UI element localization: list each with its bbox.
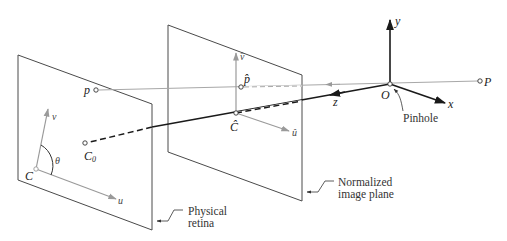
- label-u: u: [118, 195, 123, 206]
- label-p-hat: p̂: [243, 72, 250, 86]
- u-axis: [36, 169, 116, 199]
- ray-P-to-p: [99, 81, 478, 90]
- pinhole-leader: [394, 89, 403, 111]
- point-p-marker: [94, 88, 98, 92]
- optical-axis-dashed-mid-overlay: [236, 101, 302, 113]
- physical-retina-leader: [157, 210, 183, 221]
- theta-arc: [41, 145, 53, 175]
- label-pinhole: Pinhole: [403, 112, 438, 124]
- label-P: P: [483, 75, 492, 89]
- x-axis: [390, 84, 445, 103]
- point-C0-marker: [83, 141, 87, 145]
- label-u-hat: û: [292, 127, 297, 138]
- label-O: O: [381, 88, 390, 102]
- label-C0-sub: 0: [92, 155, 96, 164]
- normalized-plane-leader: [307, 181, 334, 192]
- label-y-axis: y: [394, 14, 401, 28]
- label-theta: θ: [55, 155, 60, 166]
- label-normalized-line2: image plane: [338, 188, 394, 201]
- pinhole-camera-diagram: P O p̂ Ĉ p C0 C y x z v̂ û u v θ Pinhole…: [0, 0, 507, 241]
- diagram-canvas: P O p̂ Ĉ p C0 C y x z v̂ û u v θ Pinhole…: [0, 0, 507, 241]
- point-C-marker: [34, 167, 38, 171]
- point-C-hat-marker: [234, 111, 238, 115]
- u-hat-axis: [236, 113, 289, 131]
- label-C0: C0: [84, 149, 96, 164]
- point-O-marker: [388, 82, 392, 86]
- optical-axis-solid: [152, 84, 390, 127]
- label-C: C: [25, 169, 34, 183]
- label-normalized-line1: Normalized: [338, 176, 393, 188]
- label-v-hat: v̂: [240, 51, 245, 62]
- v-axis: [36, 109, 48, 169]
- label-physical-line2: retina: [188, 217, 214, 229]
- point-p-hat-marker: [239, 85, 243, 89]
- point-P-marker: [478, 79, 482, 83]
- label-p: p: [83, 83, 90, 97]
- label-z-axis: z: [332, 95, 338, 109]
- label-x-axis: x: [447, 97, 454, 111]
- label-v: v: [52, 111, 57, 122]
- label-C-hat: Ĉ: [230, 120, 239, 134]
